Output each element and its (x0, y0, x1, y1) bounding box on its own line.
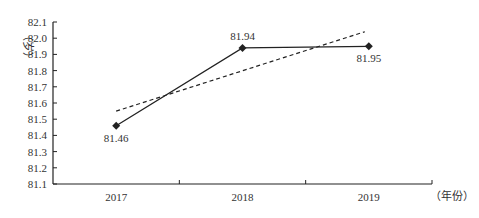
diamond-marker-icon (112, 122, 120, 130)
x-tick-label: 2018 (232, 191, 255, 203)
data-markers (112, 42, 373, 129)
x-tick-label: 2019 (358, 191, 381, 203)
y-tick-label: 81.3 (28, 146, 48, 158)
y-tick-label: 81.2 (28, 162, 47, 174)
data-series-line (116, 46, 369, 125)
series-polyline (116, 46, 369, 125)
trend-dashed-line (116, 32, 365, 111)
x-tick-label: 2017 (105, 191, 128, 203)
y-tick-label: 81.1 (28, 178, 47, 190)
y-tick-label: 82.1 (28, 16, 47, 28)
data-point-label: 81.95 (356, 52, 381, 64)
data-point-label: 81.46 (104, 132, 129, 144)
x-axis-title: （年份） (430, 189, 474, 202)
y-tick-label: 81.7 (28, 81, 48, 93)
diamond-marker-icon (239, 44, 247, 52)
y-tick-label: 81.9 (28, 48, 48, 60)
diamond-marker-icon (365, 42, 373, 50)
y-tick-label: 81.8 (28, 65, 48, 77)
y-tick-label: 82.0 (28, 32, 48, 44)
line-chart: （岁） 81.181.281.381.481.581.681.781.881.9… (0, 0, 479, 218)
y-tick-label: 81.5 (28, 113, 48, 125)
y-tick-label: 81.4 (28, 129, 48, 141)
y-tick-label: 81.6 (28, 97, 48, 109)
trend-line (116, 32, 365, 111)
data-point-label: 81.94 (230, 30, 255, 42)
